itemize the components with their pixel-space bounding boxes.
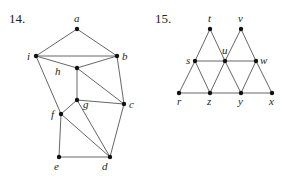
label-t: t (208, 12, 212, 24)
edge-s-z (195, 61, 210, 93)
edge-v-w (241, 29, 256, 61)
nodes (34, 27, 126, 159)
node-d (108, 155, 112, 159)
label-d: d (102, 160, 108, 172)
node-w (254, 59, 258, 63)
label-g: g (83, 98, 89, 110)
edge-a-b (77, 29, 117, 56)
label-v: v (238, 12, 243, 24)
edge-g-d (77, 100, 110, 157)
label-u: u (222, 44, 228, 56)
label-y: y (237, 95, 243, 107)
node-h (75, 66, 79, 70)
label-a: a (74, 12, 80, 24)
label-f: f (51, 108, 56, 120)
edge-f-d (61, 114, 110, 157)
node-s (193, 59, 197, 63)
label-w: w (260, 54, 268, 66)
label-c: c (129, 98, 134, 110)
edge-g-f (61, 100, 77, 114)
figure-number: 15. (155, 11, 171, 26)
node-t (208, 27, 212, 31)
label-e: e (54, 160, 59, 172)
figure-14: 14. (9, 11, 134, 172)
label-z: z (206, 95, 212, 107)
edge-w-y (241, 61, 256, 93)
node-g (75, 98, 79, 102)
edge-h-b (77, 56, 117, 68)
diagram-canvas: 14. (0, 0, 286, 186)
edge-a-i (36, 29, 77, 56)
node-f (59, 112, 63, 116)
node-i (34, 54, 38, 58)
label-h: h (55, 65, 61, 77)
label-s: s (186, 54, 190, 66)
node-c (122, 102, 126, 106)
label-r: r (177, 95, 182, 107)
node-b (115, 54, 119, 58)
node-a (75, 27, 79, 31)
node-u (223, 59, 227, 63)
figure-number: 14. (9, 11, 25, 26)
node-e (57, 155, 61, 159)
edges (36, 29, 124, 157)
labels: a i b h g c f e d (27, 12, 134, 172)
node-v (239, 27, 243, 31)
label-b: b (122, 50, 128, 62)
edge-b-c (117, 56, 124, 104)
edge-u-y (225, 61, 241, 93)
label-i: i (27, 50, 30, 62)
edge-c-d (110, 104, 124, 157)
edge-f-e (59, 114, 61, 157)
figure-15: 15. t v s (155, 11, 274, 107)
label-x: x (268, 95, 274, 107)
edge-u-z (210, 61, 225, 93)
edge-t-s (195, 29, 210, 61)
